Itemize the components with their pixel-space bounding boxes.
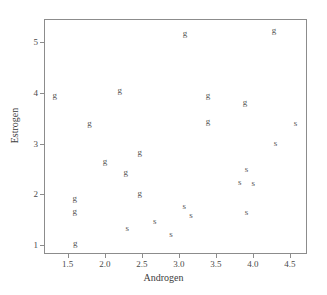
data-point-g: g <box>206 116 211 125</box>
data-point-s: s <box>245 165 249 174</box>
x-axis-tick <box>216 254 217 258</box>
scatter-plot-figure: gggggggggggggggsssssssssss 1.52.02.53.03… <box>0 0 327 295</box>
data-point-g: g <box>272 26 277 35</box>
data-point-g: g <box>243 98 248 107</box>
data-point-s: s <box>245 207 249 216</box>
x-axis-tick <box>68 254 69 258</box>
x-axis-tick <box>179 254 180 258</box>
x-axis-tick-label: 2.5 <box>136 259 147 269</box>
data-point-g: g <box>138 188 143 197</box>
y-axis-tick <box>40 194 44 195</box>
x-axis-tick-label: 3.5 <box>210 259 221 269</box>
data-point-s: s <box>294 118 298 127</box>
data-point-g: g <box>73 238 78 247</box>
x-axis-tick <box>253 254 254 258</box>
x-axis-tick <box>105 254 106 258</box>
y-axis-tick-label: 2 <box>34 189 39 199</box>
x-axis-tick-label: 1.5 <box>62 259 73 269</box>
x-axis-tick-label: 3.0 <box>173 259 184 269</box>
x-axis-label: Androgen <box>0 272 327 283</box>
data-point-s: s <box>125 224 129 233</box>
data-point-s: s <box>251 178 255 187</box>
y-axis-tick-label: 3 <box>34 139 39 149</box>
data-point-g: g <box>118 86 123 95</box>
data-point-s: s <box>183 202 187 211</box>
data-point-g: g <box>124 168 129 177</box>
data-point-s: s <box>238 177 242 186</box>
data-point-g: g <box>87 118 92 127</box>
y-axis-tick-label: 4 <box>34 88 39 98</box>
y-axis-tick <box>40 245 44 246</box>
data-point-s: s <box>189 210 193 219</box>
y-axis-tick <box>40 93 44 94</box>
y-axis-tick-label: 1 <box>34 240 39 250</box>
x-axis-tick <box>290 254 291 258</box>
y-axis-tick-label: 5 <box>34 37 39 47</box>
y-axis-tick <box>40 42 44 43</box>
plot-data-area: gggggggggggggggsssssssssss <box>45 20 306 253</box>
data-point-g: g <box>103 157 108 166</box>
data-point-s: s <box>274 138 278 147</box>
data-point-g: g <box>72 193 77 202</box>
y-axis-label: Estrogen <box>9 86 20 166</box>
data-point-g: g <box>183 29 188 38</box>
data-point-g: g <box>206 91 211 100</box>
x-axis-tick-label: 4.0 <box>247 259 258 269</box>
data-point-g: g <box>52 90 57 99</box>
x-axis-tick-label: 2.0 <box>99 259 110 269</box>
x-axis-tick-label: 4.5 <box>284 259 295 269</box>
plot-frame: gggggggggggggggsssssssssss <box>44 19 307 254</box>
y-axis-tick <box>40 144 44 145</box>
data-point-s: s <box>153 217 157 226</box>
data-point-g: g <box>72 206 77 215</box>
data-point-g: g <box>138 148 143 157</box>
x-axis-tick <box>142 254 143 258</box>
data-point-s: s <box>169 229 173 238</box>
